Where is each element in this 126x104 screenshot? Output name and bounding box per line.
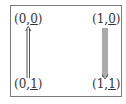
edge-left-double-arrow [26, 27, 32, 79]
edges-layer [0, 0, 126, 104]
arrowhead-up-icon [26, 27, 32, 32]
edge-right-triple-arrow [102, 28, 108, 79]
